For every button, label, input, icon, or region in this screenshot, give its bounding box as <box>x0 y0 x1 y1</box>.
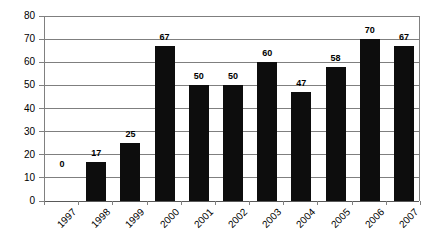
x-tick-label: 2006 <box>363 207 386 230</box>
y-tick-label: 10 <box>24 173 35 183</box>
bar-value-label: 50 <box>228 72 238 81</box>
bar[interactable] <box>189 85 209 201</box>
x-tick-label: 1999 <box>124 207 147 230</box>
bar[interactable] <box>257 62 277 201</box>
x-tick-mark <box>181 201 182 205</box>
x-tick-mark <box>78 201 79 205</box>
bar-value-label: 67 <box>160 33 170 42</box>
x-tick-mark <box>420 201 421 205</box>
bar[interactable] <box>394 46 414 201</box>
x-tick-mark <box>317 201 318 205</box>
bar[interactable] <box>155 46 175 201</box>
bar-value-label: 70 <box>365 26 375 35</box>
bar[interactable] <box>291 92 311 201</box>
bar-value-label: 0 <box>60 160 65 169</box>
y-tick-label: 80 <box>24 11 35 21</box>
y-tick-label: 70 <box>24 34 35 44</box>
x-tick-label: 2003 <box>261 207 284 230</box>
x-tick-mark <box>215 201 216 205</box>
bar-value-label: 17 <box>91 149 101 158</box>
x-tick-label: 1998 <box>90 207 113 230</box>
x-tick-mark <box>386 201 387 205</box>
plot-area: 017256750506047587067 <box>44 16 420 201</box>
y-tick-label: 60 <box>24 57 35 67</box>
bar-slot: 58 <box>318 16 352 201</box>
bar[interactable] <box>326 67 346 201</box>
bar-chart: 01020304050607080 017256750506047587067 … <box>0 0 438 249</box>
x-tick-mark <box>44 201 45 205</box>
y-tick-label: 40 <box>24 104 35 114</box>
bar-value-label: 25 <box>125 130 135 139</box>
x-tick-mark <box>352 201 353 205</box>
y-tick-label: 20 <box>24 150 35 160</box>
x-tick-label: 2001 <box>192 207 215 230</box>
x-tick-label: 2000 <box>158 207 181 230</box>
bar-slot: 67 <box>148 16 182 201</box>
bar-slot: 17 <box>79 16 113 201</box>
bar-slot: 25 <box>113 16 147 201</box>
x-tick-label: 2005 <box>329 207 352 230</box>
bar-value-label: 50 <box>194 72 204 81</box>
bars-layer: 017256750506047587067 <box>45 16 419 201</box>
bar-value-label: 47 <box>296 79 306 88</box>
bar-slot: 60 <box>250 16 284 201</box>
x-tick-label: 2002 <box>227 207 250 230</box>
bar[interactable] <box>223 85 243 201</box>
bar-value-label: 67 <box>399 33 409 42</box>
y-tick-label: 30 <box>24 127 35 137</box>
x-tick-mark <box>249 201 250 205</box>
y-tick-label: 50 <box>24 80 35 90</box>
x-tick-label: 1997 <box>56 207 79 230</box>
x-tick-label: 2004 <box>295 207 318 230</box>
y-axis: 01020304050607080 <box>0 16 44 201</box>
bar-slot: 47 <box>284 16 318 201</box>
bar[interactable] <box>86 162 106 201</box>
x-tick-mark <box>147 201 148 205</box>
x-tick-mark <box>112 201 113 205</box>
x-axis: 1997199819992000200120022003200420052006… <box>44 201 420 249</box>
bar-slot: 50 <box>216 16 250 201</box>
x-tick-label: 2007 <box>397 207 420 230</box>
bar[interactable] <box>120 143 140 201</box>
bar-slot: 50 <box>182 16 216 201</box>
bar-slot: 70 <box>353 16 387 201</box>
bar[interactable] <box>360 39 380 201</box>
bar-value-label: 58 <box>331 54 341 63</box>
bar-value-label: 60 <box>262 49 272 58</box>
bar-slot: 67 <box>387 16 421 201</box>
bar-slot: 0 <box>45 16 79 201</box>
x-tick-mark <box>283 201 284 205</box>
y-tick-label: 0 <box>29 196 35 206</box>
